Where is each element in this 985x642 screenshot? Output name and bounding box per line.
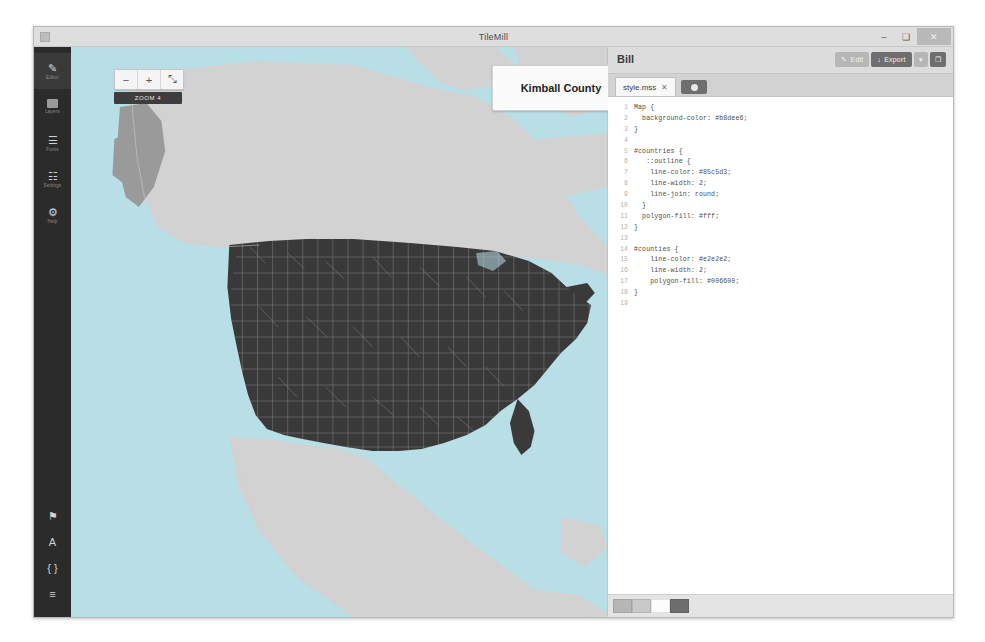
export-button-label: Export [884,56,905,63]
zoom-buttons: − + ⤡ [114,69,184,90]
save-button[interactable]: ❐ [930,52,946,67]
code-line: 1Map { [608,102,953,113]
tab-label: style.mss [623,83,656,92]
code-pane-header: Bill ✎ Edit ↓ Export ▾ [608,47,953,74]
color-swatch[interactable] [670,599,689,613]
sidebar-item-help[interactable]: ⚙ Help [34,197,71,233]
edit-button[interactable]: ✎ Edit [835,52,869,67]
code-line: 13 [608,233,953,244]
pencil-icon: ✎ [841,56,847,64]
line-number: 2 [608,115,634,122]
window-controls: – ❑ ✕ [873,27,951,46]
tilemill-window: TileMill – ❑ ✕ ✎ Editor Layers [33,26,954,618]
code-lines: 1Map {2 background-color: #b8dee6;3}45#c… [608,97,953,309]
sidebar-item-markers[interactable]: ⚑ [34,503,71,529]
sidebar-item-editor[interactable]: ✎ Editor [34,53,71,89]
line-number: 8 [608,180,634,187]
code-line-text: background-color: #b8dee6; [634,115,748,122]
sidebar-item-fonts[interactable]: ☰ Fonts [34,125,71,161]
window-menu-icon[interactable] [40,32,50,42]
list-icon: ≡ [49,588,55,600]
map-canvas[interactable] [71,47,608,617]
code-line: 11 polygon-fill: #fff; [608,211,953,222]
code-line: 16 line-width: 2; [608,265,953,276]
color-swatch[interactable] [651,599,670,613]
tooltip-title: Kimball County [521,82,602,94]
rail-bottom-group: ⚑ A { } ≡ [34,503,71,617]
code-line: 19 [608,298,953,309]
sidebar-item-label: Settings [44,183,62,189]
export-button[interactable]: ↓ Export [871,52,911,67]
app-title: TileMill [479,32,508,42]
code-line-text: polygon-fill: #fff; [634,213,719,220]
line-number: 17 [608,278,634,285]
color-swatch-bar [608,594,953,617]
sidebar-item-settings[interactable]: ☷ Settings [34,161,71,197]
code-line: 7 line-color: #85c5d3; [608,167,953,178]
code-line: 10 } [608,200,953,211]
maximize-button[interactable]: ❑ [895,28,917,45]
feature-tooltip: Kimball County [492,65,608,111]
sidebar-item-carto[interactable]: { } [34,555,71,581]
window-titlebar: TileMill – ❑ ✕ [34,27,953,47]
code-line: 9 line-join: round; [608,189,953,200]
sidebar-item-font[interactable]: A [34,529,71,555]
line-number: 6 [608,158,634,165]
export-icon: ↓ [877,56,881,63]
color-swatch[interactable] [613,599,632,613]
code-line: 12} [608,222,953,233]
code-line-text: line-join: round; [634,191,719,198]
color-swatch[interactable] [632,599,651,613]
plus-icon [691,84,698,91]
line-number: 9 [608,191,634,198]
code-line: 5#countries { [608,146,953,157]
code-line: 14#counties { [608,244,953,255]
line-number: 10 [608,202,634,209]
code-line: 18} [608,287,953,298]
code-line-text: Map { [634,104,654,111]
code-line-text: } [634,126,638,133]
code-editor[interactable]: 1Map {2 background-color: #b8dee6;3}45#c… [608,97,953,597]
gear-icon: ⚙ [48,206,58,218]
close-button[interactable]: ✕ [917,28,951,45]
code-line: 2 background-color: #b8dee6; [608,113,953,124]
line-number: 5 [608,148,634,155]
code-line-text: ::outline { [634,158,691,165]
line-number: 3 [608,126,634,133]
zoom-in-button[interactable]: + [138,70,161,89]
code-line: 3} [608,124,953,135]
sidebar-item-layers[interactable]: Layers [34,89,71,125]
line-number: 7 [608,169,634,176]
sidebar-item-label: Fonts [46,147,58,153]
sidebar-item-label: Help [47,219,57,225]
line-number: 14 [608,246,634,253]
minimize-button[interactable]: – [873,28,895,45]
sliders-icon: ☷ [48,170,58,182]
map-zoom-widget: − + ⤡ ZOOM 4 [114,69,184,104]
code-line-text: #countries { [634,148,683,155]
layers-icon [47,99,58,108]
fullscreen-icon[interactable]: ⤡ [161,70,183,89]
code-pane: Bill ✎ Edit ↓ Export ▾ [607,47,953,617]
code-line-text: line-color: #85c5d3; [634,169,731,176]
code-line-text: polygon-fill: #006600; [634,278,739,285]
code-line: 4 [608,135,953,146]
marker-icon: ⚑ [48,510,58,522]
add-stylesheet-button[interactable] [681,80,707,94]
sidebar-item-docs[interactable]: ≡ [34,581,71,607]
font-icon: A [49,536,56,548]
close-icon[interactable]: ✕ [661,83,668,92]
line-number: 16 [608,267,634,274]
code-line: 6 ::outline { [608,156,953,167]
code-line: 8 line-width: 2; [608,178,953,189]
sidebar-item-label: Layers [45,109,60,115]
edit-button-label: Edit [851,56,864,63]
zoom-out-button[interactable]: − [115,70,138,89]
stylesheet-tabbar: style.mss ✕ [608,74,953,97]
tab-style-mss[interactable]: style.mss ✕ [615,77,676,96]
pencil-icon: ✎ [48,62,57,74]
map-pane[interactable]: − + ⤡ ZOOM 4 Kimball County [71,47,608,617]
code-line: 17 polygon-fill: #006600; [608,276,953,287]
code-line-text: } [634,202,646,209]
dropdown-button[interactable]: ▾ [914,52,928,67]
